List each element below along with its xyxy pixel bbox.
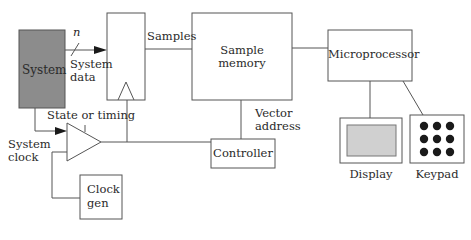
- bus-width-label: n: [73, 26, 80, 39]
- state-or-timing-label: State or timing: [47, 109, 135, 122]
- keypad-keys: [420, 122, 454, 156]
- clock-gen-label-line2: gen: [87, 197, 109, 210]
- display-label: Display: [340, 168, 402, 181]
- vector-address-label-line2: address: [255, 120, 301, 133]
- microprocessor-label: Microprocessor: [328, 48, 412, 61]
- keypad-label: Keypad: [410, 168, 464, 181]
- samples-label: Samples: [147, 30, 196, 43]
- display-screen: [347, 125, 396, 156]
- system-data-arrowhead: [94, 46, 107, 54]
- controller-label: Controller: [211, 147, 275, 160]
- system-data-label-line2: data: [70, 71, 96, 84]
- system-label: System: [22, 64, 66, 77]
- microprocessor-to-keypad-line: [403, 81, 423, 115]
- system-clock-arrowhead: [55, 127, 67, 135]
- sample-memory-label-line2: memory: [192, 57, 292, 70]
- trigger-buffer-triangle: [67, 123, 101, 161]
- clock-gen-feedback-line: [52, 152, 80, 198]
- system-clock-label-line2: clock: [8, 151, 38, 164]
- clock-gen-label-line1: Clock: [87, 183, 120, 196]
